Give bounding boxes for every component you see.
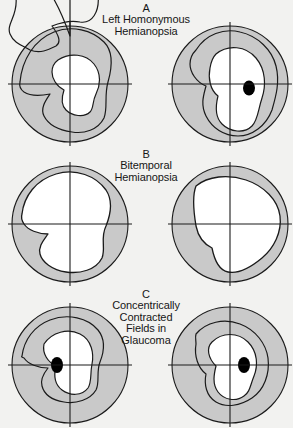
panel-caption-line: Hemianopsia bbox=[76, 26, 216, 38]
panel-caption-line: Concentrically bbox=[76, 300, 216, 312]
panel-caption-line: Hemianopsia bbox=[76, 172, 216, 184]
panel-caption-c: C Concentrically Contracted Fields in Gl… bbox=[76, 288, 216, 346]
panel-caption-a: A Left Homonymous Hemianopsia bbox=[76, 2, 216, 37]
panel-caption-line: Left Homonymous bbox=[76, 14, 216, 26]
panel-caption-b: B Bitemporal Hemianopsia bbox=[76, 148, 216, 183]
panel-caption-line: Bitemporal bbox=[76, 160, 216, 172]
panel-caption-line: Fields in bbox=[76, 323, 216, 335]
visual-field-figure bbox=[0, 0, 293, 428]
blind-spot bbox=[243, 81, 255, 96]
panel-caption-line: Glaucoma bbox=[76, 335, 216, 347]
